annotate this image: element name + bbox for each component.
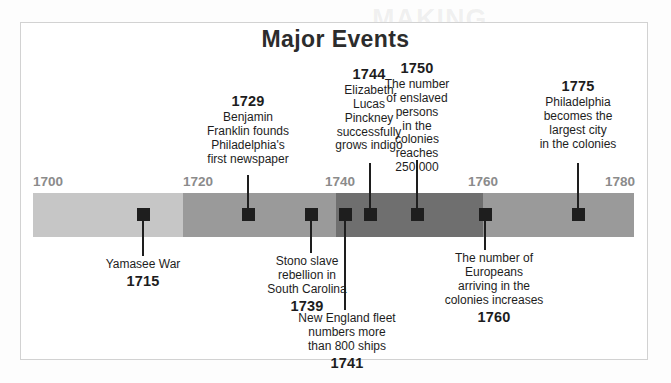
callout-year-1741: 1741 <box>284 355 410 372</box>
callout-year-1775: 1775 <box>522 78 634 95</box>
callout-line-1750-3: persons <box>376 106 458 120</box>
timeline-segment-1740-1760 <box>336 193 483 237</box>
callout-line-1729-2: Franklin founds <box>192 125 304 139</box>
callout-line-1715-1: Yamasee War <box>84 258 202 272</box>
timeline-segment-1700-1720 <box>33 193 183 237</box>
callout-year-1715: 1715 <box>84 273 202 290</box>
timeline-segment-1760-1780 <box>483 193 634 237</box>
callout-1741[interactable]: New England fleet numbers more than 800 … <box>284 312 410 372</box>
marker-1750[interactable] <box>411 208 424 221</box>
marker-1741[interactable] <box>339 208 352 221</box>
callout-line-1775-3: largest city <box>522 124 634 138</box>
callout-line-1739-2: rebellion in <box>248 269 366 283</box>
callout-line-1750-1: The number <box>376 78 458 92</box>
marker-1715[interactable] <box>137 208 150 221</box>
callout-line-1729-1: Benjamin <box>192 111 304 125</box>
callout-year-1750: 1750 <box>376 60 458 77</box>
stem-1744 <box>369 163 371 213</box>
callout-line-1760-1: The number of <box>425 252 563 266</box>
callout-line-1750-5: colonies <box>376 133 458 147</box>
callout-year-1729: 1729 <box>192 93 304 110</box>
tick-label-1780: 1780 <box>605 174 635 189</box>
page-title: Major Events <box>0 26 671 53</box>
callout-line-1760-4: colonies increases <box>425 294 563 308</box>
callout-line-1739-1: Stono slave <box>248 255 366 269</box>
callout-line-1741-1: New England fleet <box>284 312 410 326</box>
callout-line-1741-3: than 800 ships <box>284 340 410 354</box>
tick-label-1700: 1700 <box>33 174 63 189</box>
tick-label-1720: 1720 <box>183 174 213 189</box>
tick-label-1740: 1740 <box>325 174 355 189</box>
marker-1729[interactable] <box>242 208 255 221</box>
callout-1739[interactable]: Stono slave rebellion in South Carolina … <box>248 255 366 315</box>
timeline-figure: MAKING Major Events 1700 1720 1740 1760 … <box>0 0 671 383</box>
tick-label-1760: 1760 <box>468 174 498 189</box>
callout-line-1775-1: Philadelphia <box>522 96 634 110</box>
callout-year-1760: 1760 <box>425 309 563 326</box>
callout-line-1729-4: first newspaper <box>192 153 304 167</box>
callout-1760[interactable]: The number of Europeans arriving in the … <box>425 252 563 325</box>
callout-line-1741-2: numbers more <box>284 326 410 340</box>
callout-line-1760-3: arriving in the <box>425 280 563 294</box>
callout-line-1775-4: in the colonies <box>522 138 634 152</box>
callout-line-1750-2: of enslaved <box>376 92 458 106</box>
marker-1739[interactable] <box>305 208 318 221</box>
marker-1760[interactable] <box>479 208 492 221</box>
stem-1739 <box>310 218 312 253</box>
callout-line-1775-2: becomes the <box>522 110 634 124</box>
callout-line-1729-3: Philadelphia's <box>192 139 304 153</box>
callout-line-1739-3: South Carolina <box>248 283 366 297</box>
marker-1775[interactable] <box>572 208 585 221</box>
callout-1729[interactable]: 1729 Benjamin Franklin founds Philadelph… <box>192 93 304 166</box>
stem-1715 <box>142 218 144 256</box>
callout-1715[interactable]: Yamasee War 1715 <box>84 258 202 290</box>
callout-line-1750-6: reaches <box>376 147 458 161</box>
callout-line-1750-4: in the <box>376 120 458 134</box>
callout-1750[interactable]: 1750 The number of enslaved persons in t… <box>376 60 458 175</box>
stem-1775 <box>577 163 579 213</box>
stem-1760 <box>484 218 486 250</box>
marker-1744[interactable] <box>364 208 377 221</box>
callout-1775[interactable]: 1775 Philadelphia becomes the largest ci… <box>522 78 634 151</box>
callout-line-1750-7: 250,000 <box>376 161 458 175</box>
callout-line-1760-2: Europeans <box>425 266 563 280</box>
